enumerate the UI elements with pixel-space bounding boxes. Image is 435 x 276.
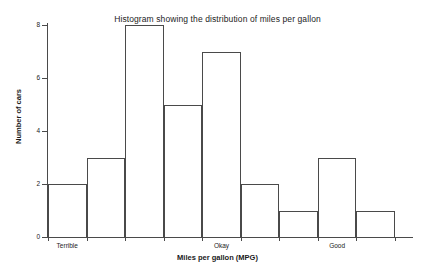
y-tick-mark	[42, 237, 47, 238]
x-tick-mark	[164, 237, 165, 241]
x-tick-mark	[241, 237, 242, 241]
histogram-bar	[241, 184, 280, 237]
x-tick-mark	[395, 237, 396, 241]
x-tick-mark	[48, 237, 49, 241]
y-tick-label: 6	[28, 74, 40, 81]
y-tick-label: 4	[28, 127, 40, 134]
chart-title: Histogram showing the distribution of mi…	[0, 14, 435, 24]
x-tick-mark	[318, 237, 319, 241]
x-tick-mark	[279, 237, 280, 241]
histogram-bar	[164, 105, 203, 238]
histogram-bar	[202, 52, 241, 238]
y-axis-title: Number of cars	[14, 72, 23, 162]
y-tick-mark	[42, 78, 47, 79]
x-tick-mark	[125, 237, 126, 241]
x-axis-line	[47, 237, 413, 238]
y-tick-label: 8	[28, 21, 40, 28]
y-tick-mark	[42, 25, 47, 26]
x-tick-mark	[202, 237, 203, 241]
histogram-figure: Histogram showing the distribution of mi…	[0, 0, 435, 276]
y-tick-mark	[42, 184, 47, 185]
y-tick-mark	[42, 131, 47, 132]
x-tick-mark	[356, 237, 357, 241]
histogram-bar	[48, 184, 87, 237]
plot-area	[48, 25, 395, 237]
x-tick-label: Okay	[214, 242, 229, 249]
y-tick-label: 0	[28, 233, 40, 240]
x-tick-mark	[87, 237, 88, 241]
histogram-bar	[125, 25, 164, 237]
y-tick-label: 2	[28, 180, 40, 187]
histogram-bar	[279, 211, 318, 238]
x-tick-label: Good	[329, 242, 345, 249]
x-tick-label: Terrible	[57, 242, 78, 249]
histogram-bar	[87, 158, 126, 238]
histogram-bar	[356, 211, 395, 238]
histogram-bar	[318, 158, 357, 238]
x-axis-title: Miles per gallon (MPG)	[0, 253, 435, 262]
